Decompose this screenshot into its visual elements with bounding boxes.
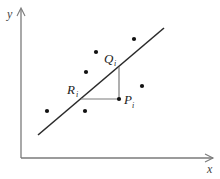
regression-line: [38, 28, 164, 135]
label-Q-subscript: i: [114, 59, 116, 68]
label-P: P: [123, 92, 132, 107]
label-P-subscript: i: [132, 101, 134, 110]
data-point: [45, 109, 49, 113]
label-R: R: [66, 82, 75, 97]
data-point: [132, 37, 136, 41]
regression-diagram: y x Q i R i P i: [0, 0, 220, 179]
label-Q: Q: [104, 51, 114, 66]
y-axis-label: y: [6, 7, 13, 21]
label-R-subscript: i: [76, 90, 78, 99]
x-axis-label: x: [206, 162, 213, 176]
label-P-i: P i: [123, 92, 134, 110]
data-point: [84, 70, 88, 74]
data-point: [94, 50, 98, 54]
data-point: [140, 84, 144, 88]
label-Q-i: Q i: [104, 51, 116, 68]
label-R-i: R i: [66, 82, 78, 99]
data-point: [83, 109, 87, 113]
point-P-i: [117, 97, 121, 101]
